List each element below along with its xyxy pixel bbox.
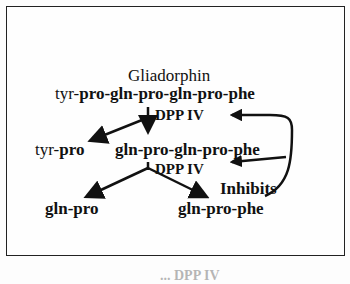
left-product-bold: pro [59, 140, 84, 159]
enzyme-label-2: DPP IV [155, 160, 204, 178]
middle-product: gln-pro-gln-pro-phe [115, 141, 260, 159]
arrow-to-gln-pro [88, 168, 148, 196]
peptide-bold: pro-gln-pro-gln-pro-phe [79, 84, 255, 103]
title-gliadorphin: Gliadorphin [128, 67, 210, 85]
final-right-product: gln-pro-phe [178, 200, 264, 218]
caption-fragment: ... DPP IV [160, 268, 220, 284]
arrow-to-tyr-pro [92, 118, 147, 140]
enzyme-label-1: DPP IV [155, 106, 204, 124]
peptide-sequence: tyr-pro-gln-pro-gln-pro-phe [55, 85, 255, 103]
left-product-plain: tyr- [35, 140, 59, 159]
left-product: tyr-pro [35, 141, 84, 159]
final-left-product: gln-pro [45, 200, 99, 218]
inhibits-label: Inhibits [220, 180, 277, 198]
peptide-plain: tyr- [55, 84, 79, 103]
